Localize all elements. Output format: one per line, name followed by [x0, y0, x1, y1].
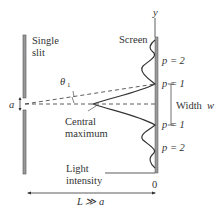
label-intensity: intensity [66, 175, 103, 186]
slit-barrier-bottom [23, 110, 26, 174]
label-y-axis: y [152, 7, 158, 18]
svg-text:w: w [207, 100, 214, 111]
label-p2-top: p = 2 [161, 55, 186, 66]
label-p1-top: p = 1 [161, 78, 185, 89]
label-maximum: maximum [65, 128, 108, 139]
single-slit-diffraction-diagram: Single slit Screen y θ 1 a Central maxim… [0, 0, 220, 213]
label-theta: θ [60, 76, 65, 87]
svg-text:1: 1 [67, 81, 71, 89]
label-p2-bottom: p = 2 [161, 142, 186, 153]
label-zero: 0 [152, 179, 157, 190]
slit-barrier-top [23, 35, 26, 98]
label-L: L ≫ a [76, 196, 104, 207]
label-central: Central [65, 116, 96, 127]
label-slit: slit [32, 47, 45, 58]
screen [155, 37, 158, 173]
label-light: Light [66, 163, 89, 174]
label-single: Single [32, 35, 59, 46]
label-p1-bottom: p = 1 [161, 119, 185, 130]
label-width: Width [176, 100, 203, 111]
label-a: a [9, 99, 14, 110]
angle-dashed-line [25, 84, 155, 104]
label-screen: Screen [119, 34, 148, 45]
